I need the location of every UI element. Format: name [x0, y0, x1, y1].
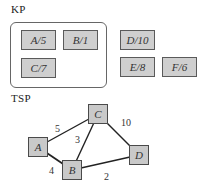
tsp-node-d: D: [129, 145, 149, 165]
edge-label-b-d: 2: [104, 171, 109, 182]
tsp-node-b: B: [62, 160, 82, 180]
tsp-node-a: A: [28, 137, 48, 157]
edge-label-c-d: 10: [121, 117, 131, 128]
edge-label-a-c: 5: [55, 123, 60, 134]
tsp-node-c: C: [88, 104, 108, 124]
tsp-edges: [0, 0, 206, 188]
edge-label-b-c: 3: [75, 134, 80, 145]
edge-label-a-b: 4: [49, 165, 54, 176]
